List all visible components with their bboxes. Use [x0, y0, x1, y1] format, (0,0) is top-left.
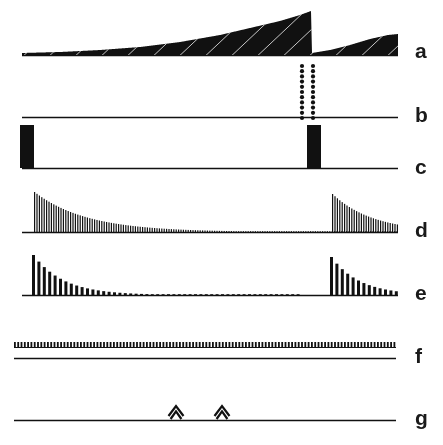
- trace-label-c: c: [415, 156, 437, 177]
- trace-label-d: d: [415, 219, 437, 240]
- trace-label-g: g: [415, 407, 437, 428]
- trace-label-e: e: [415, 282, 437, 303]
- trace-label-f: f: [415, 345, 437, 366]
- trace-label-a: a: [415, 40, 437, 61]
- figure-root: a b c d e f g: [0, 0, 443, 445]
- bottom-cropped-text-artifact: [4, 436, 154, 445]
- trace-canvas-a: [0, 0, 443, 445]
- trace-label-b: b: [415, 104, 437, 125]
